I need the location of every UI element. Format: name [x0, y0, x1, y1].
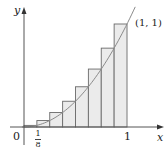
fraction-denominator: 8 [35, 140, 40, 149]
tick-label-one-eighth: 1 8 [33, 130, 43, 149]
riemann-rectangle [114, 24, 127, 127]
origin-label: 0 [13, 131, 20, 142]
tick-label-one: 1 [124, 131, 131, 142]
y-axis-label: y [14, 5, 20, 16]
fraction-numerator: 1 [35, 129, 40, 138]
x-axis-arrow-icon [157, 125, 164, 130]
riemann-rectangles [24, 24, 127, 127]
riemann-rectangle [76, 87, 89, 127]
riemann-rectangle [63, 101, 76, 127]
point-label: (1, 1) [135, 18, 162, 28]
y-axis-arrow-icon [22, 7, 27, 14]
x-axis-label: x [157, 132, 163, 143]
riemann-rectangle [101, 48, 114, 127]
